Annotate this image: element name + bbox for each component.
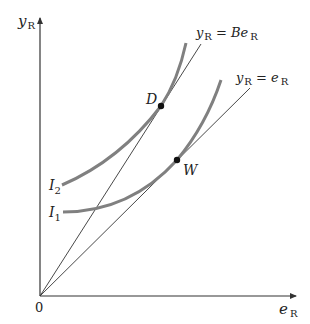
ray-e — [40, 88, 250, 296]
ray-be-label: yR = BeR — [195, 25, 258, 42]
point-w-label: W — [183, 162, 199, 178]
curve-i1 — [63, 80, 221, 212]
point-d-label: D — [145, 91, 157, 107]
point-d — [158, 103, 164, 109]
x-axis-label: eR — [279, 300, 298, 319]
ray-be — [40, 44, 201, 296]
y-axis-label: yR — [17, 12, 35, 31]
ray-e-label: yR = eR — [235, 70, 289, 87]
indifference-diagram: yR eR 0 yR = BeR yR = eR D W I2 I1 — [0, 0, 310, 324]
origin-label: 0 — [35, 300, 43, 315]
point-w — [174, 157, 180, 163]
curve-i2-label: I2 — [48, 177, 61, 196]
curve-i1-label: I1 — [48, 204, 61, 223]
